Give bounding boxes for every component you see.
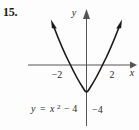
parabola-plot: y x −2 2 −4 y = x 2 − 4 (0, 0, 139, 130)
figure-container: 15. y x −2 2 −4 y = x 2 − 4 (0, 0, 139, 130)
x-tick-label-negative-2: −2 (52, 69, 63, 80)
y-axis-arrowhead-icon (83, 9, 90, 19)
equation-label: y = x 2 − 4 (30, 100, 77, 115)
y-tick-label-negative-4: −4 (92, 104, 103, 115)
x-tick-label-positive-2: 2 (110, 69, 115, 80)
equation-base: x (49, 103, 55, 114)
curve-right-arrowhead-icon (116, 20, 122, 29)
curve-left-arrowhead-icon (51, 20, 57, 29)
equation-equals: = (40, 103, 46, 114)
equation-rest: − 4 (64, 103, 77, 114)
equation-lhs: y (30, 103, 36, 114)
x-axis-label: x (129, 67, 135, 78)
y-axis-label: y (71, 7, 77, 18)
equation-exponent: 2 (57, 103, 61, 111)
